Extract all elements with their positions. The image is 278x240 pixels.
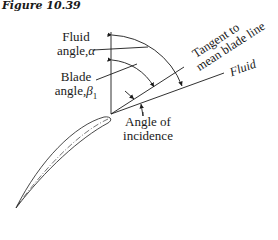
fluid-angle-label: Fluid angle,α (46, 30, 106, 58)
alpha-symbol: α (88, 43, 95, 58)
blade-angle-arc (112, 60, 154, 87)
blade-airfoil (16, 117, 111, 208)
incidence-label: Angle of incidence (118, 115, 178, 143)
blade-angle-label: Blade angle,β1 (46, 70, 106, 103)
tangent-line (111, 67, 184, 114)
incidence-arrow-upper (125, 91, 134, 99)
fluid-angle-arc (112, 35, 182, 86)
mean-camber-line (17, 119, 108, 206)
